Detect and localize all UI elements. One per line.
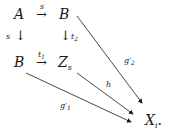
node-z: Zs xyxy=(58,55,72,75)
node-b-bottom: B xyxy=(14,55,24,69)
label-g2-sub: 2 xyxy=(131,59,135,66)
label-s-top: s xyxy=(40,3,44,11)
arrow-bb-to-x xyxy=(26,73,131,122)
label-h: h xyxy=(106,81,111,89)
label-g2-prime: g′2 xyxy=(124,57,135,67)
label-g1-sub: 1 xyxy=(67,104,71,111)
arrow-a-to-b-down: ↓ xyxy=(15,29,26,42)
label-t1-sub: 1 xyxy=(41,53,45,60)
node-x-period: . xyxy=(158,112,162,128)
label-s-left: s xyxy=(6,33,10,41)
node-z-main: Z xyxy=(58,54,68,70)
node-z-sub: s xyxy=(68,63,72,72)
node-a: A xyxy=(14,7,24,21)
node-x: Xi. xyxy=(145,113,162,133)
label-t2: t2 xyxy=(71,33,78,43)
arrow-b-to-z-down: ↓ xyxy=(60,29,71,42)
node-x-main: X xyxy=(145,112,155,128)
label-t1: t1 xyxy=(38,51,45,61)
label-g1-prime: g′1 xyxy=(60,102,71,112)
node-b-top: B xyxy=(59,7,69,21)
label-t2-sub: 2 xyxy=(74,35,78,42)
